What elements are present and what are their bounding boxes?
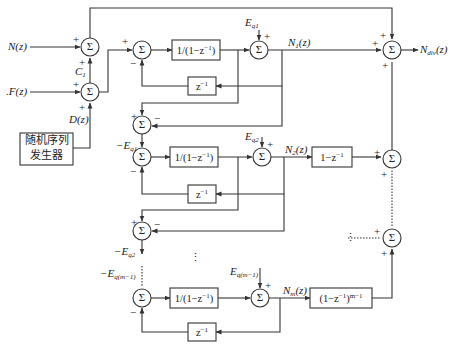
ellipsis-right: ⋮ [345, 232, 356, 243]
sign-minus: − [130, 307, 136, 318]
ellipsis-middle: ⋮ [190, 252, 201, 263]
sign-plus: + [265, 280, 271, 291]
sum-node-s1a: Σ [133, 44, 151, 55]
sum-node-sma: Σ [133, 292, 151, 303]
input-d-label: D(z) [69, 114, 89, 125]
differentiator-block-m: (1−z−1)m−1 [310, 293, 372, 305]
delay-block-1: z−1 [188, 81, 216, 93]
sign-plus: + [264, 31, 270, 42]
sign-plus: + [382, 60, 388, 71]
sign-plus: + [381, 248, 387, 259]
sign-plus: + [267, 139, 273, 150]
nm-label: Nm(z) [283, 285, 307, 298]
differentiator-block-1: 1−z−1 [312, 152, 352, 164]
eqm1-label: Eq(m−1) [230, 266, 258, 279]
sum-node-smb: Σ [251, 292, 269, 303]
output-ndiv-label: Ndiv(z) [420, 44, 448, 57]
sum-node-outm: Σ [383, 232, 401, 243]
sign-plus: + [380, 30, 386, 41]
random-sequence-generator: 随机序列 发生器 [20, 134, 73, 164]
input-n-label: N(z) [8, 41, 27, 52]
eq2-label: Eq2 [245, 131, 259, 144]
sign-minus: − [130, 58, 136, 69]
sign-plus: + [79, 57, 85, 68]
sign-plus: + [131, 111, 137, 122]
input-f-label: .F(z) [6, 86, 27, 97]
sign-plus: + [374, 147, 380, 158]
sign-plus: + [79, 102, 85, 113]
sum-node-s2b: Σ [253, 151, 271, 162]
sign-minus: − [154, 219, 160, 230]
sign-plus: + [73, 79, 79, 90]
integrator-block-m: 1/(1−z−1) [170, 293, 218, 305]
eq1-label: Eq1 [245, 17, 259, 30]
sum-node-2: Σ [81, 86, 99, 97]
integrator-block-1: 1/(1−z−1) [172, 45, 220, 57]
delay-block-2: z−1 [188, 189, 216, 201]
sign-plus: + [372, 38, 378, 49]
sign-plus: + [374, 226, 380, 237]
n1-label: N1(z) [288, 37, 310, 50]
neg-eq1-label: −Eq1 [116, 140, 137, 153]
sign-plus: + [73, 34, 79, 45]
neg-eqm1-label: −Eq(m−1) [100, 268, 136, 281]
delay-block-m: z−1 [188, 327, 216, 339]
sum-node-1: Σ [81, 41, 99, 52]
sum-node-out2: Σ [383, 153, 401, 164]
sign-plus: + [381, 169, 387, 180]
integrator-block-2: 1/(1−z−1) [170, 152, 218, 164]
sign-plus: + [131, 217, 137, 228]
sum-node-s1b: Σ [250, 44, 268, 55]
sign-minus: − [154, 113, 160, 124]
sign-minus: − [130, 166, 136, 177]
neg-eq2-label: −Eq2 [114, 246, 135, 259]
n2-label: N2(z) [285, 144, 307, 157]
sum-node-output: Σ [383, 44, 401, 55]
sign-plus: + [122, 36, 128, 47]
